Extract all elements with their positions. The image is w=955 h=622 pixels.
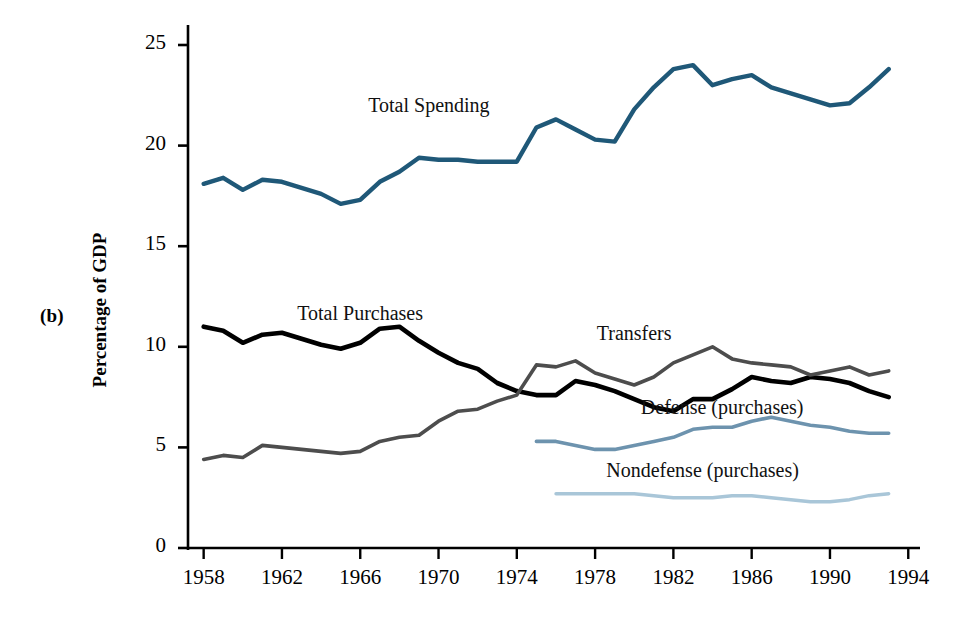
x-tick-label: 1986: [712, 565, 792, 590]
series-label-total-spending: Total Spending: [368, 94, 489, 117]
chart-plot-area: [0, 0, 955, 622]
panel-label: (b): [40, 305, 64, 327]
y-tick-label: 0: [126, 533, 166, 558]
x-tick-label: 1962: [242, 565, 322, 590]
y-tick-label: 20: [126, 131, 166, 156]
y-tick-label: 25: [126, 30, 166, 55]
series-label-defense: Defense (purchases): [641, 396, 804, 419]
x-tick-label: 1970: [399, 565, 479, 590]
x-tick-label: 1978: [555, 565, 635, 590]
y-axis-title: Percentage of GDP: [89, 233, 111, 388]
y-tick-label: 5: [126, 432, 166, 457]
series-label-total-purchases: Total Purchases: [297, 302, 423, 325]
x-tick-label: 1994: [868, 565, 948, 590]
x-tick-label: 1958: [164, 565, 244, 590]
series-label-nondefense: Nondefense (purchases): [606, 459, 799, 482]
y-tick-label: 10: [126, 332, 166, 357]
x-tick-label: 1990: [790, 565, 870, 590]
x-tick-label: 1974: [477, 565, 557, 590]
x-tick-label: 1966: [320, 565, 400, 590]
y-tick-label: 15: [126, 231, 166, 256]
series-label-transfers: Transfers: [597, 322, 672, 345]
series-line-defense-purchases: [536, 417, 888, 449]
series-line-nondefense-purchases: [556, 494, 889, 502]
series-line-total-spending: [204, 65, 889, 204]
x-tick-label: 1982: [633, 565, 713, 590]
figure-panel-b: (b) Percentage of GDP 051015202519581962…: [0, 0, 955, 622]
